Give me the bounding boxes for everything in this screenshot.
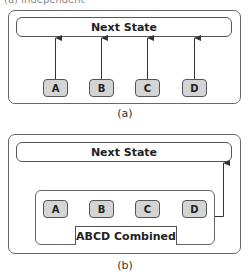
diagram-b-arrow	[215, 163, 224, 217]
diagram-a-arrows	[56, 38, 195, 79]
arrow-up-icon	[215, 163, 224, 217]
arrow-layer	[0, 0, 250, 278]
